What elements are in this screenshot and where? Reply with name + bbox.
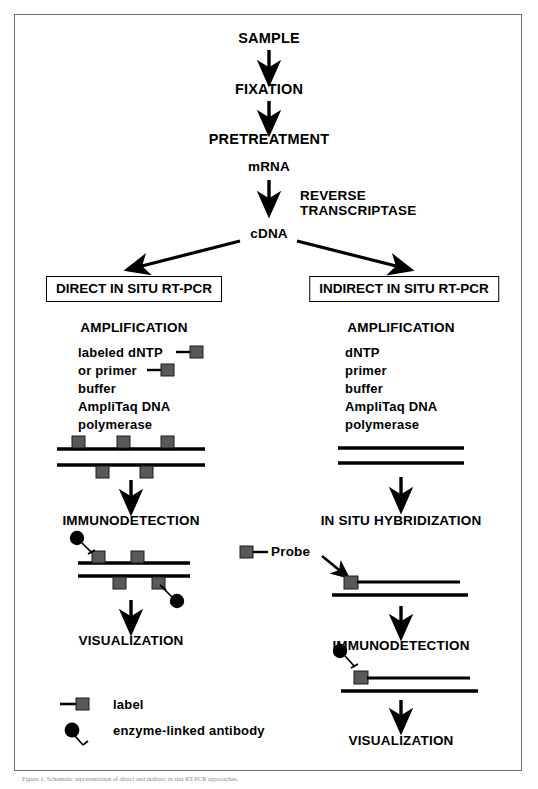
right-reagent-0: dNTP: [345, 345, 380, 360]
right-reagent-1: primer: [345, 363, 387, 378]
right-step-amplification: AMPLIFICATION: [347, 320, 454, 335]
right-reagent-3: AmpliTaq DNA: [345, 399, 437, 414]
right-probe-label: Probe: [271, 544, 310, 559]
flowchart-canvas: SAMPLE FIXATION PRETREATMENT mRNA REVERS…: [0, 0, 538, 789]
legend-item-label-text: label: [113, 697, 144, 712]
left-reagent-symbols: [0, 0, 538, 789]
right-branch-header[interactable]: INDIRECT IN SITU RT-PCR: [309, 276, 499, 302]
right-reagent-2: buffer: [345, 381, 383, 396]
figure-caption: Figure 1. Schematic representation of di…: [22, 775, 238, 782]
left-step-immunodetection: IMMUNODETECTION: [62, 513, 199, 528]
right-step-visualization: VISUALIZATION: [348, 733, 453, 748]
right-step-hybridization: IN SITU HYBRIDIZATION: [321, 513, 482, 528]
left-step-visualization: VISUALIZATION: [78, 633, 183, 648]
right-reagent-4: polymerase: [345, 417, 419, 432]
legend-item-antibody-text: enzyme-linked antibody: [113, 723, 265, 738]
right-step-immunodetection: IMMUNODETECTION: [332, 638, 469, 653]
